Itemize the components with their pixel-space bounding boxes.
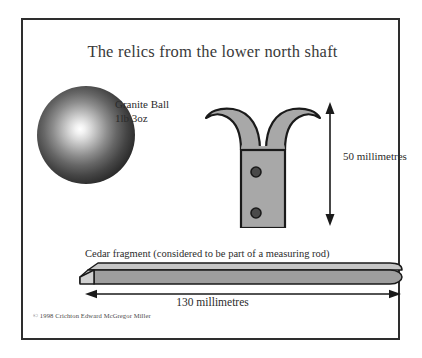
vertical-dimension-arrow-icon	[319, 100, 349, 228]
hook-tool-group	[203, 98, 323, 228]
page-title: The relics from the lower north shaft	[23, 42, 402, 62]
copyright-notice: © 1998 Crichton Edward McGregor Miller	[33, 312, 151, 319]
granite-ball-label-line2: 1lb 3oz	[115, 112, 169, 126]
vertical-dimension-label: 50 millimetres	[343, 150, 407, 162]
granite-ball-label: Granite Ball 1lb 3oz	[115, 98, 169, 125]
hook-tool-icon	[203, 98, 323, 228]
rivet-upper	[251, 167, 261, 177]
cedar-rod-caption: Cedar fragment (considered to be part of…	[85, 248, 330, 259]
horizontal-dimension-label: 130 millimetres	[23, 296, 402, 308]
vertical-dimension-group: 50 millimetres	[319, 100, 422, 228]
granite-ball-label-line1: Granite Ball	[115, 98, 169, 112]
rivet-lower	[251, 208, 261, 218]
illustration-plate: The relics from the lower north shaft Gr…	[0, 0, 422, 358]
plate-border-frame: The relics from the lower north shaft Gr…	[21, 18, 400, 340]
